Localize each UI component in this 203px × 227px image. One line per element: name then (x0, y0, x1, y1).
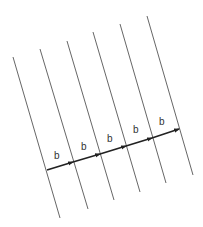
parallel-line-1 (13, 57, 60, 218)
vector-label-4: b (133, 124, 139, 135)
vector-arrow-4 (126, 138, 152, 146)
vector-label-5: b (159, 116, 165, 127)
parallel-line-4 (93, 32, 140, 192)
parallel-lines (13, 16, 193, 218)
vector-diagram: bbbbb (0, 0, 203, 227)
vector-arrow-1 (47, 162, 73, 170)
parallel-line-6 (147, 16, 193, 175)
vector-label-3: b (107, 133, 113, 144)
vector-arrow-5 (152, 129, 179, 138)
vector-arrow-2 (73, 154, 100, 162)
vector-label-2: b (81, 141, 87, 152)
vector-arrows (47, 129, 179, 170)
parallel-line-3 (67, 41, 114, 200)
vector-arrow-3 (100, 146, 126, 154)
parallel-line-5 (120, 24, 166, 183)
vector-label-1: b (54, 150, 60, 161)
parallel-line-2 (40, 49, 88, 209)
